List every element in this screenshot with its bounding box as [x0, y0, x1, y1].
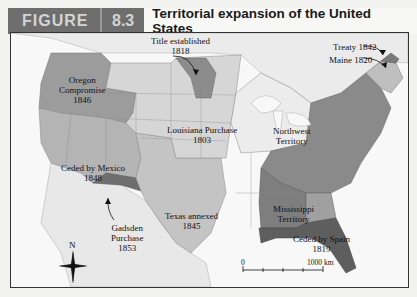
- compass-north-label: N: [69, 240, 76, 250]
- figure-header: FIGURE 8.3 Territorial expansion of the …: [8, 8, 417, 34]
- figure-number: 8.3: [100, 8, 144, 34]
- scale-start-label: 0: [241, 258, 245, 267]
- label-louisiana: Louisiana Purchase 1803: [167, 125, 237, 145]
- territorial-map: Oregon Compromise 1846 Title established…: [10, 32, 409, 288]
- label-gadsden: Gadsden Purchase 1853: [111, 223, 144, 253]
- label-mississippi: Mississippi Territory: [273, 204, 314, 224]
- label-spain: Ceded by Spain 1819: [293, 234, 350, 254]
- label-texas: Texas annexed 1845: [165, 211, 218, 231]
- label-maine: Maine 1820: [329, 55, 372, 65]
- label-oregon: Oregon Compromise 1846: [59, 75, 106, 105]
- scale-end-label: 1000 km: [307, 258, 333, 267]
- label-title-established: Title established 1818: [151, 36, 210, 56]
- figure-title: Territorial expansion of the United Stat…: [144, 8, 417, 34]
- label-mexico: Ceded by Mexico 1848: [61, 163, 125, 183]
- label-treaty: Treaty 1842: [333, 42, 376, 52]
- label-northwest: Northwest Territory: [273, 126, 311, 146]
- figure-label: FIGURE: [8, 8, 100, 34]
